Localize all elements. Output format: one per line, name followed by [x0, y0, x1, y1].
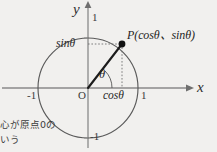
sin-theta-label: sinθ — [56, 38, 75, 50]
theta-angle-label: θ — [99, 68, 105, 81]
x-axis-label: x — [197, 80, 204, 95]
y-axis-label: y — [73, 2, 80, 17]
y-tick-label-neg1: -1 — [90, 131, 99, 142]
angle-arc — [105, 71, 112, 88]
caption-line-2: いう — [0, 134, 20, 147]
x-tick-label-neg1: -1 — [27, 90, 36, 101]
cos-theta-label: cosθ — [103, 90, 124, 102]
origin-label: O — [78, 90, 86, 101]
y-tick-label-1: 1 — [92, 12, 98, 23]
point-p-marker — [119, 41, 126, 48]
radius-segment — [88, 44, 122, 88]
caption-line-1: 心が原点0の — [0, 119, 56, 132]
point-p-label: P(cosθ、sinθ) — [127, 29, 195, 41]
y-axis — [85, 1, 92, 148]
x-tick-label-1: 1 — [141, 90, 147, 101]
